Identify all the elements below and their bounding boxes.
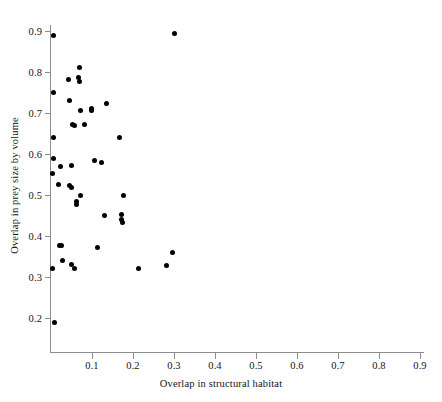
data-point [52, 320, 57, 325]
x-tick-label: 0.4 [200, 360, 230, 372]
data-point [51, 33, 56, 38]
data-point [56, 182, 61, 187]
data-point [66, 77, 71, 82]
y-tick-label: 0.2 [14, 313, 42, 324]
x-tick-label: 0.2 [118, 360, 148, 372]
x-axis-line [50, 352, 424, 353]
y-axis-line [50, 25, 51, 353]
data-point [67, 98, 72, 103]
data-point [69, 163, 74, 168]
data-point [78, 108, 83, 113]
y-tick-mark [45, 72, 51, 73]
data-point [51, 90, 56, 95]
x-tick-mark [92, 353, 93, 359]
x-tick-mark [420, 353, 421, 359]
y-tick-mark [45, 154, 51, 155]
data-point [121, 193, 126, 198]
data-point [69, 185, 74, 190]
data-point [72, 123, 77, 128]
data-point [78, 193, 83, 198]
data-point [120, 220, 125, 225]
x-tick-label: 0.3 [159, 360, 189, 372]
x-tick-mark [133, 353, 134, 359]
y-tick-label: 0.8 [14, 67, 42, 78]
x-tick-label: 0.8 [364, 360, 394, 372]
y-tick-mark [45, 31, 51, 32]
y-axis-label: Overlap in prey size by volume [9, 86, 20, 286]
data-point [59, 243, 64, 248]
data-point [74, 202, 79, 207]
y-tick-mark [45, 318, 51, 319]
data-point [58, 164, 63, 169]
y-tick-mark [45, 236, 51, 237]
data-point [51, 135, 56, 140]
y-tick-mark [45, 195, 51, 196]
x-tick-mark [297, 353, 298, 359]
x-tick-mark [174, 353, 175, 359]
data-point [170, 250, 175, 255]
x-tick-mark [338, 353, 339, 359]
data-point [92, 158, 97, 163]
x-tick-label: 0.9 [405, 360, 435, 372]
x-tick-label: 0.6 [282, 360, 312, 372]
x-tick-mark [256, 353, 257, 359]
x-tick-mark [215, 353, 216, 359]
data-point [89, 108, 94, 113]
data-point [60, 258, 65, 263]
data-point [99, 160, 104, 165]
data-point [95, 245, 100, 250]
data-point [164, 263, 169, 268]
x-tick-mark [379, 353, 380, 359]
data-point [102, 213, 107, 218]
x-tick-label: 0.1 [77, 360, 107, 372]
y-tick-mark [45, 113, 51, 114]
data-point [51, 156, 56, 161]
data-point [172, 31, 177, 36]
data-point [77, 79, 82, 84]
data-point [77, 65, 82, 70]
scatter-plot-figure: 0.20.30.40.50.60.70.80.9 0.10.20.30.40.5… [0, 0, 442, 402]
data-point [50, 266, 55, 271]
y-tick-label: 0.9 [14, 26, 42, 37]
x-tick-label: 0.7 [323, 360, 353, 372]
x-tick-label: 0.5 [241, 360, 271, 372]
data-point [136, 266, 141, 271]
data-point [82, 122, 87, 127]
data-point [50, 171, 55, 176]
data-point [104, 101, 109, 106]
data-point [117, 135, 122, 140]
x-axis-label: Overlap in structural habitat [0, 378, 442, 389]
y-tick-mark [45, 277, 51, 278]
data-point [72, 266, 77, 271]
